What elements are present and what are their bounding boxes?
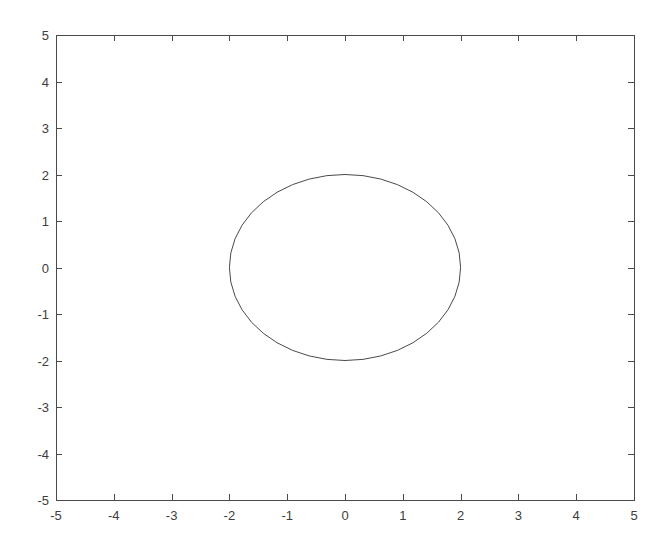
x-tick-label: -3 <box>166 509 178 522</box>
y-tick-label: 4 <box>42 75 49 88</box>
y-tick-label: -3 <box>37 401 49 414</box>
x-tick-label: 4 <box>573 509 580 522</box>
x-tick-label: -2 <box>224 509 236 522</box>
x-tick-label: 2 <box>457 509 464 522</box>
axes-box <box>56 35 634 500</box>
x-tick-label: -5 <box>50 509 62 522</box>
tick-marks <box>56 35 634 500</box>
x-tick-label: 0 <box>341 509 348 522</box>
y-tick-label: 0 <box>42 261 49 274</box>
x-tick-label: 1 <box>399 509 406 522</box>
y-tick-label: 5 <box>42 29 49 42</box>
series-circle-radius-2 <box>229 175 460 361</box>
y-tick-label: 1 <box>42 215 49 228</box>
y-tick-label: 3 <box>42 122 49 135</box>
y-tick-label: -5 <box>37 494 49 507</box>
x-tick-label: -1 <box>281 509 293 522</box>
y-tick-label: -1 <box>37 308 49 321</box>
y-tick-label: 2 <box>42 168 49 181</box>
figure-canvas: -5-4-3-2-1012345 -5-4-3-2-1012345 <box>0 0 667 551</box>
y-tick-label: -2 <box>37 354 49 367</box>
x-tick-label: -4 <box>108 509 120 522</box>
data-curve <box>229 175 460 361</box>
x-tick-label: 3 <box>515 509 522 522</box>
axes-frame <box>56 35 634 500</box>
y-tick-label: -4 <box>37 447 49 460</box>
plot-area <box>0 0 667 551</box>
x-tick-label: 5 <box>630 509 637 522</box>
